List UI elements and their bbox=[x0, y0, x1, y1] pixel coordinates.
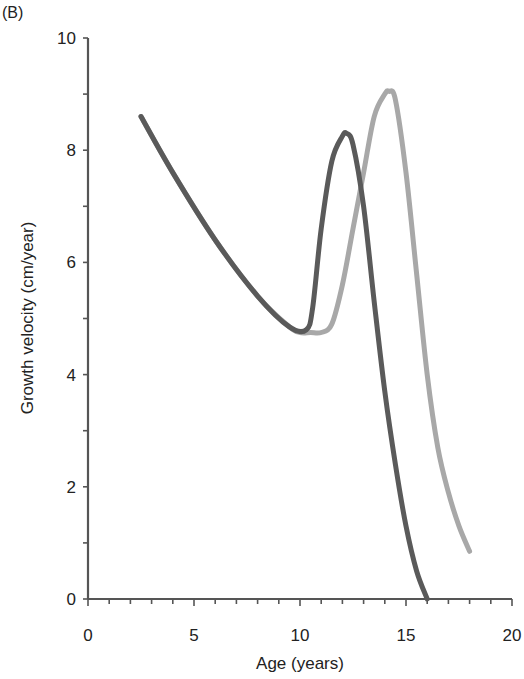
y-tick-label: 4 bbox=[67, 366, 76, 385]
axes: 024681005101520 bbox=[57, 29, 521, 645]
y-tick-label: 10 bbox=[57, 29, 76, 48]
dark-series-line bbox=[141, 117, 427, 599]
y-tick-label: 2 bbox=[67, 478, 76, 497]
light-series-line bbox=[141, 91, 470, 552]
x-tick-label: 20 bbox=[503, 626, 522, 645]
x-tick-label: 0 bbox=[83, 626, 92, 645]
x-axis-label: Age (years) bbox=[256, 654, 344, 673]
growth-velocity-chart: 024681005101520 Age (years) Growth veloc… bbox=[0, 0, 524, 679]
y-tick-label: 0 bbox=[67, 590, 76, 609]
x-tick-label: 15 bbox=[397, 626, 416, 645]
x-tick-label: 5 bbox=[189, 626, 198, 645]
series-lines bbox=[141, 91, 470, 599]
y-tick-label: 8 bbox=[67, 141, 76, 160]
y-axis-label: Growth velocity (cm/year) bbox=[18, 222, 37, 415]
y-tick-label: 6 bbox=[67, 253, 76, 272]
x-tick-label: 10 bbox=[291, 626, 310, 645]
